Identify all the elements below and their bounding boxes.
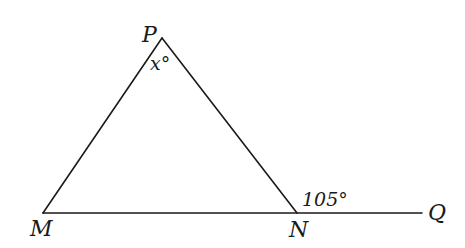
segment-pm [43,38,162,213]
point-label-m: M [29,216,53,241]
angle-label-105: 105° [302,188,348,210]
point-label-p: P [141,22,158,47]
triangle-diagram: P M N Q x° 105° [0,0,465,248]
segment-pn [162,38,297,213]
angle-label-x: x° [150,52,170,74]
point-label-n: N [288,217,309,242]
point-label-q: Q [428,200,446,225]
